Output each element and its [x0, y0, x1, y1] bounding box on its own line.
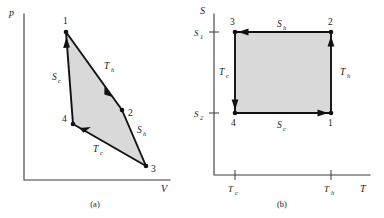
- svg-text:S: S: [194, 109, 199, 119]
- panel-b-state-4-label: 4: [231, 118, 236, 128]
- panel-a-process-label-2-3: S h: [137, 125, 146, 137]
- svg-text:h: h: [331, 189, 334, 196]
- panel-a-process-label-3-4: T c: [93, 144, 103, 156]
- panel-a-state-3-label: 3: [151, 164, 156, 174]
- svg-text:T: T: [228, 184, 234, 194]
- panel-a-cycle-region: [66, 32, 146, 166]
- panel-b-svg: S T S 1 S 2 T c T h: [192, 0, 384, 218]
- panel-b-cycle-region: [235, 32, 331, 113]
- panel-b-caption: (b): [277, 199, 287, 209]
- svg-text:h: h: [347, 72, 350, 79]
- panel-b-state-1-dot: [329, 111, 334, 116]
- svg-text:c: c: [226, 72, 229, 79]
- svg-text:S: S: [194, 28, 199, 38]
- panel-b-process-label-2-3: S h: [277, 19, 286, 31]
- panel-a-caption: (a): [90, 199, 100, 209]
- svg-text:S: S: [277, 19, 282, 29]
- svg-text:T: T: [340, 67, 346, 77]
- panel-b-xtick-tc-label: T c: [228, 184, 238, 196]
- panel-b-state-1-label: 1: [328, 118, 333, 128]
- panel-b-state-2-label: 2: [328, 17, 333, 27]
- panel-a-svg: p V 1 2 3 4: [0, 0, 192, 218]
- svg-text:S: S: [277, 120, 282, 130]
- panel-b-process-label-1-2: T h: [340, 67, 350, 79]
- panel-a-state-3-dot: [144, 164, 149, 169]
- svg-text:T: T: [219, 67, 225, 77]
- panel-b-st-diagram: S T S 1 S 2 T c T h: [192, 0, 384, 218]
- panel-b-state-2-dot: [329, 30, 334, 35]
- panel-a-xaxis-label: V: [161, 183, 169, 194]
- panel-a-state-2-label: 2: [128, 108, 133, 118]
- panel-a-state-1-label: 1: [63, 16, 68, 26]
- svg-text:2: 2: [200, 114, 204, 121]
- svg-text:h: h: [143, 130, 146, 137]
- panel-b-xaxis-label: T: [360, 183, 367, 194]
- panel-b-state-3-dot: [233, 30, 238, 35]
- panel-b-process-label-3-4: T c: [219, 67, 229, 79]
- panel-b-ytick-s2-label: S 2: [194, 109, 204, 121]
- panel-a-yaxis-label: p: [8, 7, 14, 18]
- svg-text:h: h: [111, 66, 114, 73]
- svg-text:c: c: [58, 77, 61, 84]
- panel-b-state-3-label: 3: [230, 17, 235, 27]
- panel-b-yaxis-label: S: [200, 5, 205, 16]
- svg-text:T: T: [104, 61, 110, 71]
- panel-a-state-1-dot: [64, 30, 69, 35]
- svg-text:T: T: [93, 144, 99, 154]
- svg-text:c: c: [235, 189, 238, 196]
- panel-a-process-label-1-2: T h: [104, 61, 114, 73]
- figure-root: p V 1 2 3 4: [0, 0, 384, 218]
- svg-text:T: T: [324, 184, 330, 194]
- panel-a-process-label-4-1: S c: [52, 72, 61, 84]
- svg-text:h: h: [283, 24, 286, 31]
- panel-a-state-4-label: 4: [62, 114, 67, 124]
- panel-b-xtick-th-label: T h: [324, 184, 334, 196]
- panel-a-pv-diagram: p V 1 2 3 4: [0, 0, 192, 218]
- svg-text:S: S: [137, 125, 142, 135]
- svg-text:c: c: [100, 149, 103, 156]
- panel-a-state-4-dot: [71, 122, 76, 127]
- svg-text:S: S: [52, 72, 57, 82]
- svg-text:1: 1: [200, 33, 203, 40]
- panel-b-process-label-4-1: S c: [277, 120, 286, 132]
- panel-a-state-2-dot: [120, 108, 125, 113]
- panel-b-state-4-dot: [233, 111, 238, 116]
- panel-b-ytick-s1-label: S 1: [194, 28, 203, 40]
- svg-text:c: c: [283, 125, 286, 132]
